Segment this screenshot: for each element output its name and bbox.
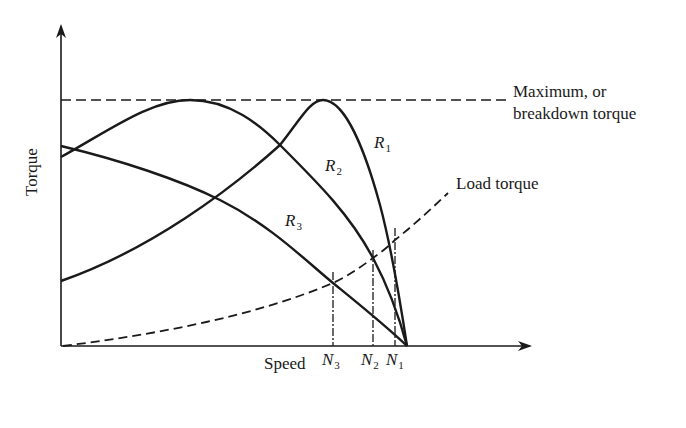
curve-r2: [61, 100, 407, 346]
n3-label: N3: [322, 351, 340, 371]
breakdown-label-line2: breakdown torque: [513, 105, 636, 122]
torque-speed-diagram: [0, 0, 686, 428]
n2-label: N2: [361, 351, 379, 371]
curve-r1: [61, 100, 407, 346]
curve-load-torque: [63, 193, 448, 346]
r1-label: R1: [374, 134, 391, 154]
x-axis-label: Speed: [264, 355, 306, 372]
r2-label: R2: [325, 157, 342, 177]
y-axis-label: Torque: [22, 148, 42, 196]
r3-label: R3: [285, 212, 302, 232]
breakdown-label-line1: Maximum, or: [513, 83, 607, 100]
load-torque-label: Load torque: [456, 175, 539, 192]
n1-label: N1: [386, 351, 404, 371]
